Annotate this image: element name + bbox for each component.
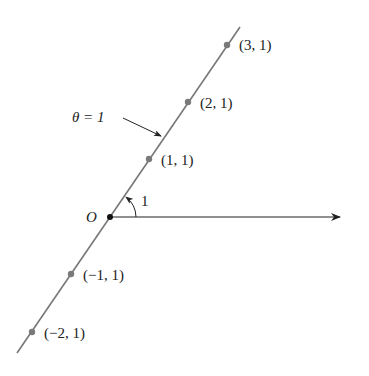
- angle-arc: [126, 197, 136, 217]
- point-neg1-1: (−1, 1): [68, 267, 124, 284]
- point-label: (−2, 1): [44, 325, 85, 342]
- origin-label: O: [86, 209, 97, 225]
- theta-line-label: θ = 1: [72, 109, 105, 125]
- point-label: (−1, 1): [83, 267, 124, 284]
- origin-point: [107, 214, 113, 220]
- theta-line: [17, 27, 240, 353]
- point-label: (3, 1): [239, 37, 272, 54]
- theta-label-arrow: [123, 118, 161, 136]
- angle-label: 1: [141, 193, 149, 209]
- point-label: (1, 1): [161, 152, 194, 169]
- polar-diagram: 1 O θ = 1 (3, 1) (2, 1) (1, 1) (−1, 1) (…: [0, 0, 369, 376]
- point-neg2-1: (−2, 1): [29, 325, 85, 342]
- point-label: (2, 1): [200, 95, 233, 112]
